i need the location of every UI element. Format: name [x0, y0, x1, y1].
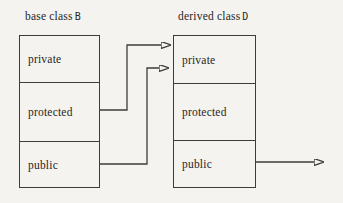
- derived-public-label: public: [182, 158, 212, 170]
- derived-public-section: public: [174, 140, 255, 187]
- base-class-title-prefix: base class: [25, 10, 73, 22]
- base-class-name: B: [73, 11, 82, 22]
- arrow-base-protected-to-derived-private: [100, 45, 161, 110]
- base-public-section: public: [20, 141, 99, 187]
- derived-class-title: derived classD: [178, 10, 249, 22]
- base-class-box: private protected public: [19, 35, 100, 188]
- base-public-label: public: [28, 159, 58, 171]
- derived-protected-label: protected: [182, 106, 227, 118]
- derived-class-title-prefix: derived class: [178, 10, 240, 22]
- derived-class-box: private protected public: [173, 35, 256, 188]
- derived-private-label: private: [182, 54, 215, 66]
- arrow-base-public-to-derived-private: [100, 68, 159, 164]
- derived-private-section: private: [174, 36, 255, 83]
- inheritance-diagram: base classB derived classD private prote…: [0, 0, 343, 203]
- derived-protected-section: protected: [174, 83, 255, 140]
- base-protected-section: protected: [20, 82, 99, 141]
- derived-class-name: D: [240, 11, 249, 22]
- base-private-section: private: [20, 36, 99, 82]
- base-class-title: base classB: [25, 10, 81, 22]
- base-protected-label: protected: [28, 106, 73, 118]
- base-private-label: private: [28, 53, 61, 65]
